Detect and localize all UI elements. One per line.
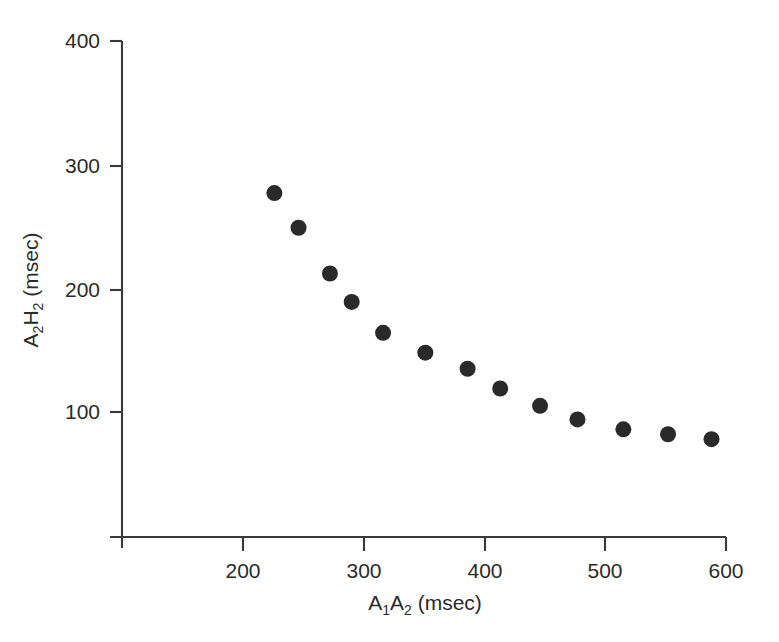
data-point — [417, 345, 433, 361]
y-axis-tick-labels: 400 300 200 100 — [65, 29, 100, 423]
y-axis-ticks — [110, 41, 122, 412]
x-axis-title-base2: A — [390, 591, 404, 614]
y-tick-label-400: 400 — [65, 29, 100, 52]
data-point — [615, 421, 631, 437]
x-axis-title-units: (msec) — [412, 591, 482, 614]
data-point — [460, 361, 476, 377]
y-axis-title-base2: H — [19, 310, 42, 325]
scatter-plot: 400 300 200 100 200 300 400 500 600 A1A2… — [0, 0, 779, 642]
x-tick-label-600: 600 — [708, 559, 743, 582]
x-tick-label-500: 500 — [587, 559, 622, 582]
x-axis-title: A1A2 (msec) — [368, 591, 482, 618]
x-axis-title-sub2: 2 — [404, 602, 412, 618]
data-point — [266, 185, 282, 201]
data-point — [569, 411, 585, 427]
data-point — [344, 294, 360, 310]
y-axis-title-units: (msec) — [19, 233, 42, 303]
data-point — [375, 325, 391, 341]
y-axis-title-sub1: 2 — [30, 325, 46, 333]
data-point — [704, 431, 720, 447]
data-point — [322, 265, 338, 281]
x-tick-label-300: 300 — [346, 559, 381, 582]
x-axis-title-base1: A — [368, 591, 382, 614]
y-tick-label-300: 300 — [65, 154, 100, 177]
figure-container: 400 300 200 100 200 300 400 500 600 A1A2… — [0, 0, 779, 642]
x-axis-title-sub1: 1 — [382, 602, 390, 618]
x-axis-ticks — [243, 537, 726, 551]
data-point — [492, 381, 508, 397]
data-point-group — [266, 185, 719, 447]
y-tick-label-200: 200 — [65, 278, 100, 301]
y-axis-title-sub2: 2 — [30, 302, 46, 310]
data-point — [532, 398, 548, 414]
data-point — [660, 426, 676, 442]
data-point — [291, 220, 307, 236]
y-axis-title: A2H2 (msec) — [19, 233, 46, 348]
x-tick-label-400: 400 — [467, 559, 502, 582]
y-tick-label-100: 100 — [65, 400, 100, 423]
y-axis-title-base1: A — [19, 333, 42, 347]
x-axis-tick-labels: 200 300 400 500 600 — [225, 559, 743, 582]
x-tick-label-200: 200 — [225, 559, 260, 582]
